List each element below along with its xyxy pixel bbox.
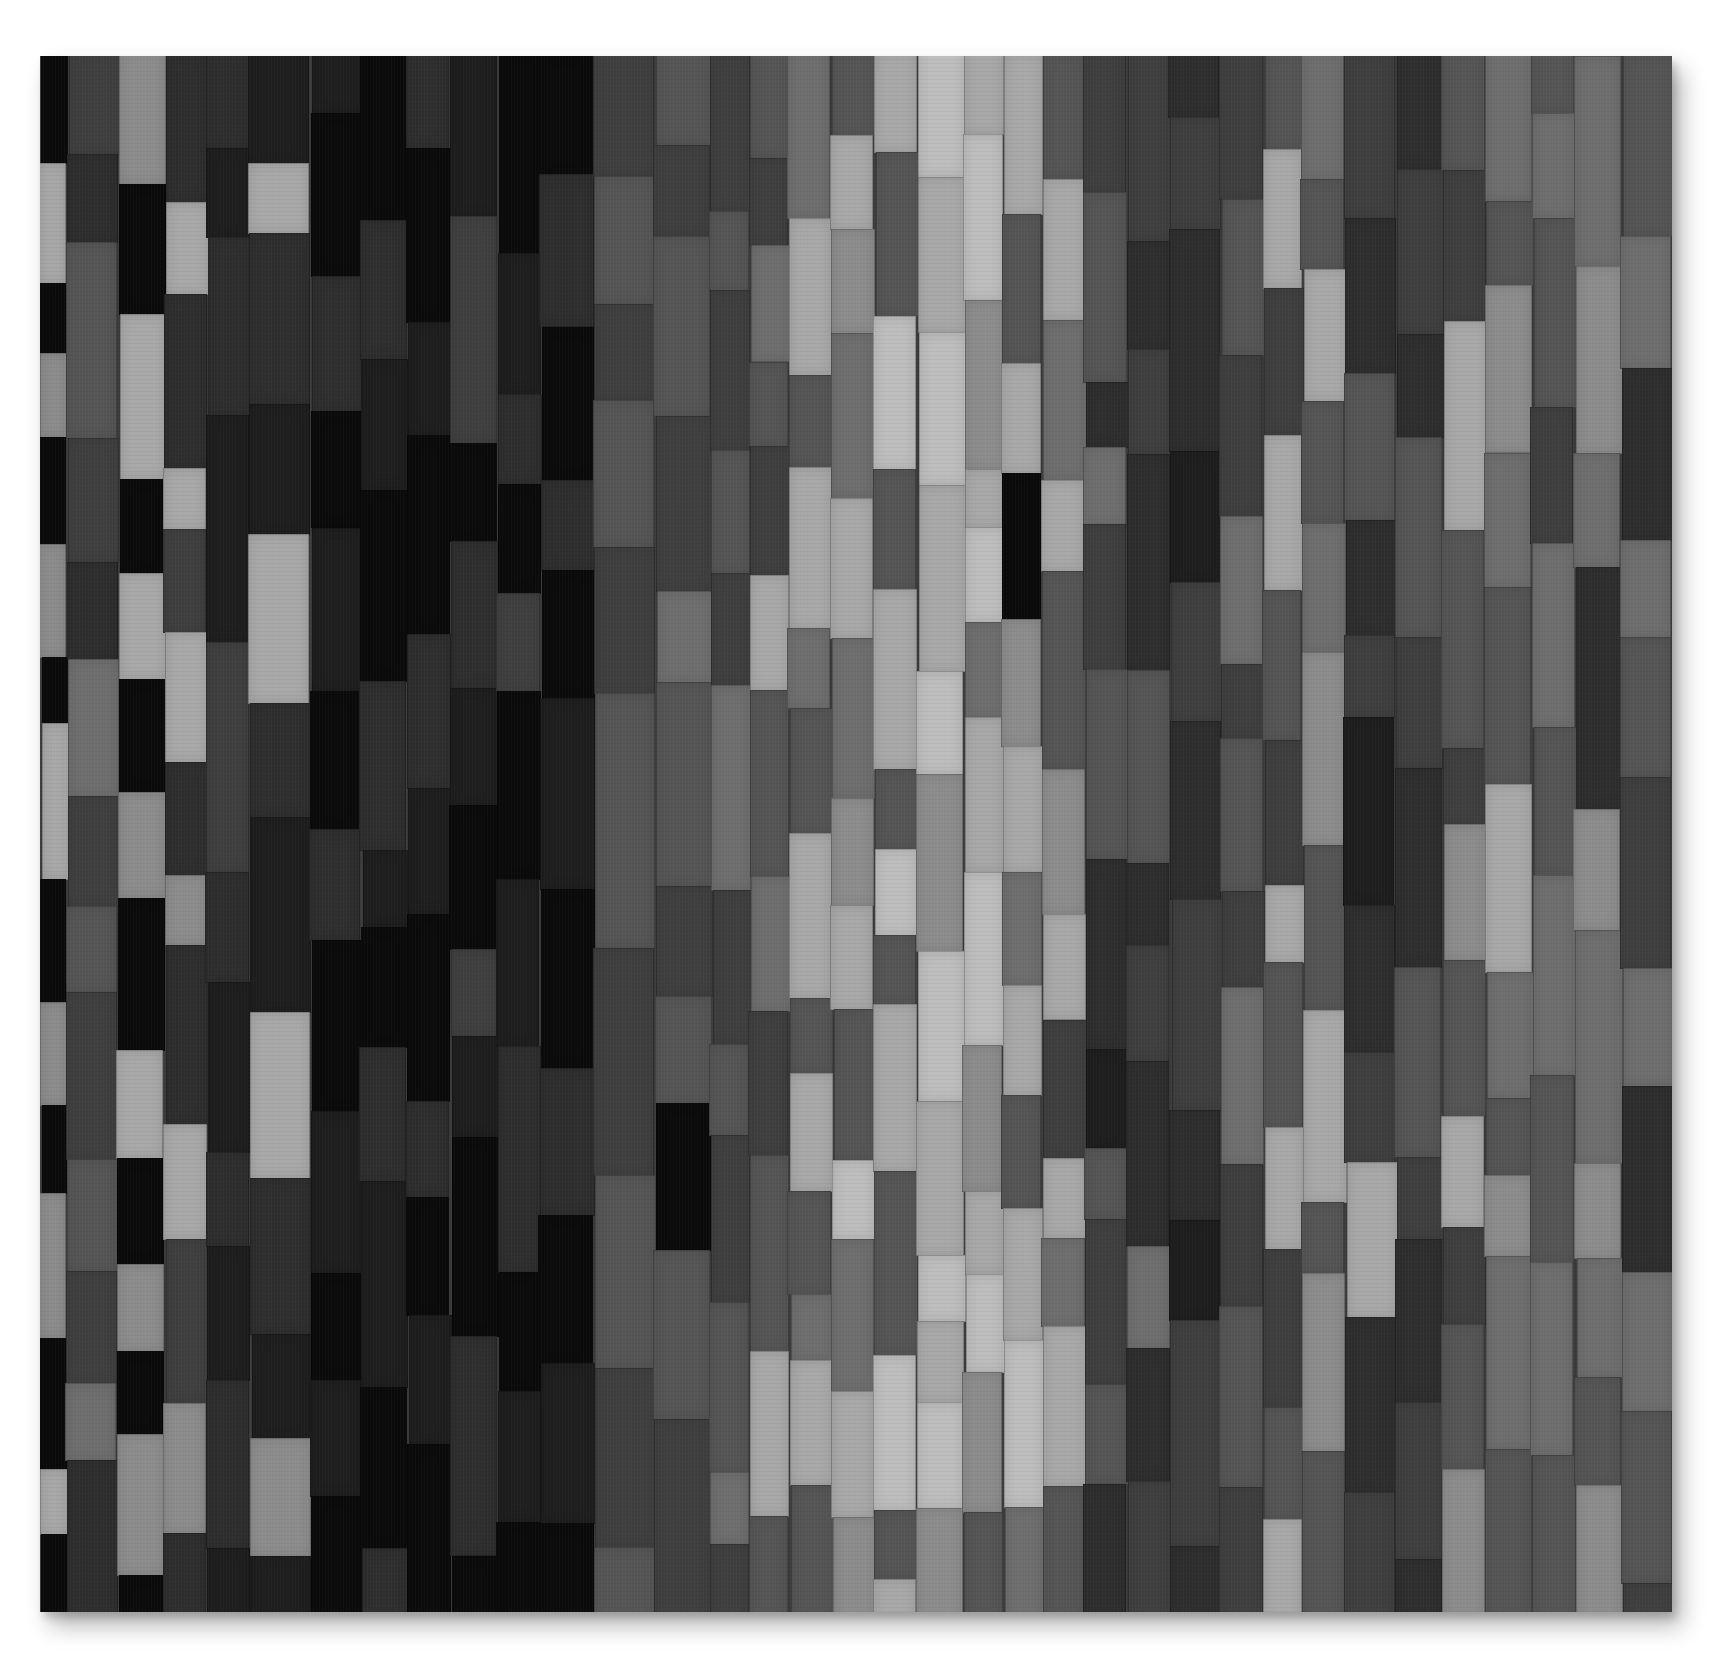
quilt-patch	[248, 534, 309, 704]
quilt-strip	[1532, 56, 1575, 1612]
quilt-patch	[831, 333, 874, 499]
quilt-patch	[118, 792, 165, 899]
quilt-patch	[1265, 1127, 1304, 1250]
quilt-patch	[653, 145, 710, 237]
quilt-patch	[1574, 1377, 1621, 1486]
quilt-patch	[42, 723, 70, 880]
quilt-strip	[1003, 56, 1042, 1612]
quilt-patch	[407, 435, 450, 634]
quilt-patch	[916, 671, 963, 775]
quilt-strip	[1127, 56, 1170, 1612]
quilt-patch	[408, 322, 451, 436]
quilt-patch	[789, 467, 832, 629]
quilt-patch	[361, 1181, 408, 1388]
quilt-patch	[116, 1050, 163, 1159]
quilt-patch	[1486, 1098, 1533, 1176]
quilt-patch	[1043, 1020, 1086, 1159]
quilt-patch	[119, 1575, 166, 1612]
quilt-patch	[1396, 637, 1443, 769]
quilt-patch	[1397, 334, 1444, 439]
quilt-patch	[831, 1239, 874, 1392]
quilt-patch	[1343, 717, 1394, 906]
quilt-patch	[1530, 1075, 1573, 1264]
quilt-patch	[1620, 540, 1671, 637]
quilt-patch	[68, 796, 119, 906]
quilt-patch	[713, 890, 752, 1046]
quilt-patch	[541, 1363, 596, 1524]
quilt-patch	[42, 657, 70, 723]
quilt-patch	[1530, 1262, 1573, 1456]
quilt-patch	[117, 1351, 164, 1435]
quilt-patch	[1395, 768, 1442, 967]
quilt-patch	[831, 798, 874, 906]
quilt-patch	[593, 56, 654, 177]
quilt-patch	[1301, 1202, 1344, 1274]
quilt-patch	[119, 56, 166, 185]
quilt-patch	[1443, 960, 1486, 1116]
quilt-patch	[117, 1264, 164, 1352]
quilt-patch	[594, 176, 655, 305]
quilt-patch	[1302, 1273, 1345, 1452]
quilt-patch	[165, 632, 208, 763]
quilt-patch	[1576, 1485, 1623, 1612]
quilt-patch	[363, 850, 410, 927]
quilt-patch	[498, 394, 541, 485]
quilt-patch	[541, 480, 596, 571]
quilt-patch	[964, 56, 1003, 135]
quilt-patch	[832, 1160, 875, 1240]
quilt-patch	[657, 591, 714, 684]
quilt-patch	[207, 1548, 250, 1612]
quilt-patch	[66, 242, 117, 439]
quilt-patch	[710, 290, 749, 450]
quilt-patch	[830, 905, 873, 1010]
quilt-patch	[1127, 454, 1170, 672]
quilt-patch	[252, 1334, 313, 1440]
quilt-patch	[1620, 777, 1671, 969]
quilt-patch	[406, 1197, 449, 1317]
quilt-patch	[1264, 435, 1303, 591]
quilt-strip	[67, 56, 118, 1612]
quilt-patch	[873, 1355, 916, 1511]
quilt-patch	[873, 1004, 916, 1173]
quilt-patch	[710, 1472, 749, 1545]
quilt-patch	[250, 1556, 311, 1612]
quilt-patch	[66, 906, 117, 993]
quilt-strip	[310, 56, 361, 1612]
quilt-patch	[1344, 635, 1395, 717]
quilt-patch	[875, 769, 918, 850]
quilt-patch	[205, 872, 248, 983]
quilt-patch	[831, 1391, 874, 1518]
quilt-patch	[1576, 567, 1623, 810]
quilt-patch	[966, 1274, 1005, 1373]
quilt-patch	[1265, 885, 1304, 963]
quilt-patch	[1573, 453, 1620, 568]
quilt-patch	[1084, 1148, 1127, 1221]
quilt-patch	[917, 1321, 964, 1403]
quilt-patch	[873, 589, 916, 770]
quilt-patch	[499, 1272, 542, 1392]
quilt-patch	[1170, 721, 1221, 900]
quilt-patch	[409, 1315, 452, 1445]
quilt-patch	[68, 659, 119, 798]
quilt-patch	[496, 1522, 539, 1612]
quilt-patch	[1344, 905, 1395, 1054]
quilt-strip	[408, 56, 451, 1612]
quilt-strip	[1085, 56, 1128, 1612]
quilt-patch	[407, 1444, 450, 1612]
quilt-patch	[450, 56, 497, 217]
quilt-patch	[1043, 320, 1086, 480]
quilt-patch	[166, 202, 209, 295]
quilt-patch	[452, 1137, 499, 1337]
quilt-patch	[1083, 56, 1126, 193]
quilt-patch	[1169, 1220, 1220, 1320]
quilt-patch	[163, 468, 206, 530]
quilt-patch	[1264, 1407, 1303, 1520]
quilt-patch	[656, 56, 713, 146]
quilt-patch	[208, 982, 251, 1153]
quilt-patch	[1532, 113, 1575, 219]
quilt-patch	[1003, 1208, 1042, 1341]
quilt-patch	[1002, 473, 1041, 620]
quilt-patch	[1086, 1049, 1129, 1148]
quilt-patch	[206, 148, 249, 238]
quilt-patch	[361, 927, 408, 1048]
